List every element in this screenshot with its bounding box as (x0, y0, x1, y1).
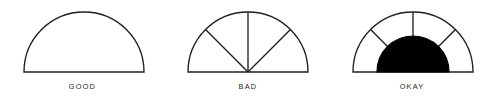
okay-inner-filled-core (377, 36, 449, 72)
okay-spoke-45-icon (438, 30, 455, 47)
diagram-good-label: GOOD (0, 82, 165, 92)
diagram-good: GOOD (0, 0, 165, 101)
bad-spoke-45-icon (248, 30, 290, 72)
diagram-okay: OKAY (331, 0, 493, 101)
diagram-okay-label: OKAY (331, 82, 493, 92)
figure-canvas: GOOD BAD OKAY (0, 0, 493, 101)
diagram-bad: BAD (165, 0, 331, 101)
okay-spoke-135-icon (371, 30, 388, 47)
bad-spoke-135-icon (206, 30, 248, 72)
diagram-bad-label: BAD (165, 82, 331, 92)
good-outer-arc (24, 12, 144, 72)
